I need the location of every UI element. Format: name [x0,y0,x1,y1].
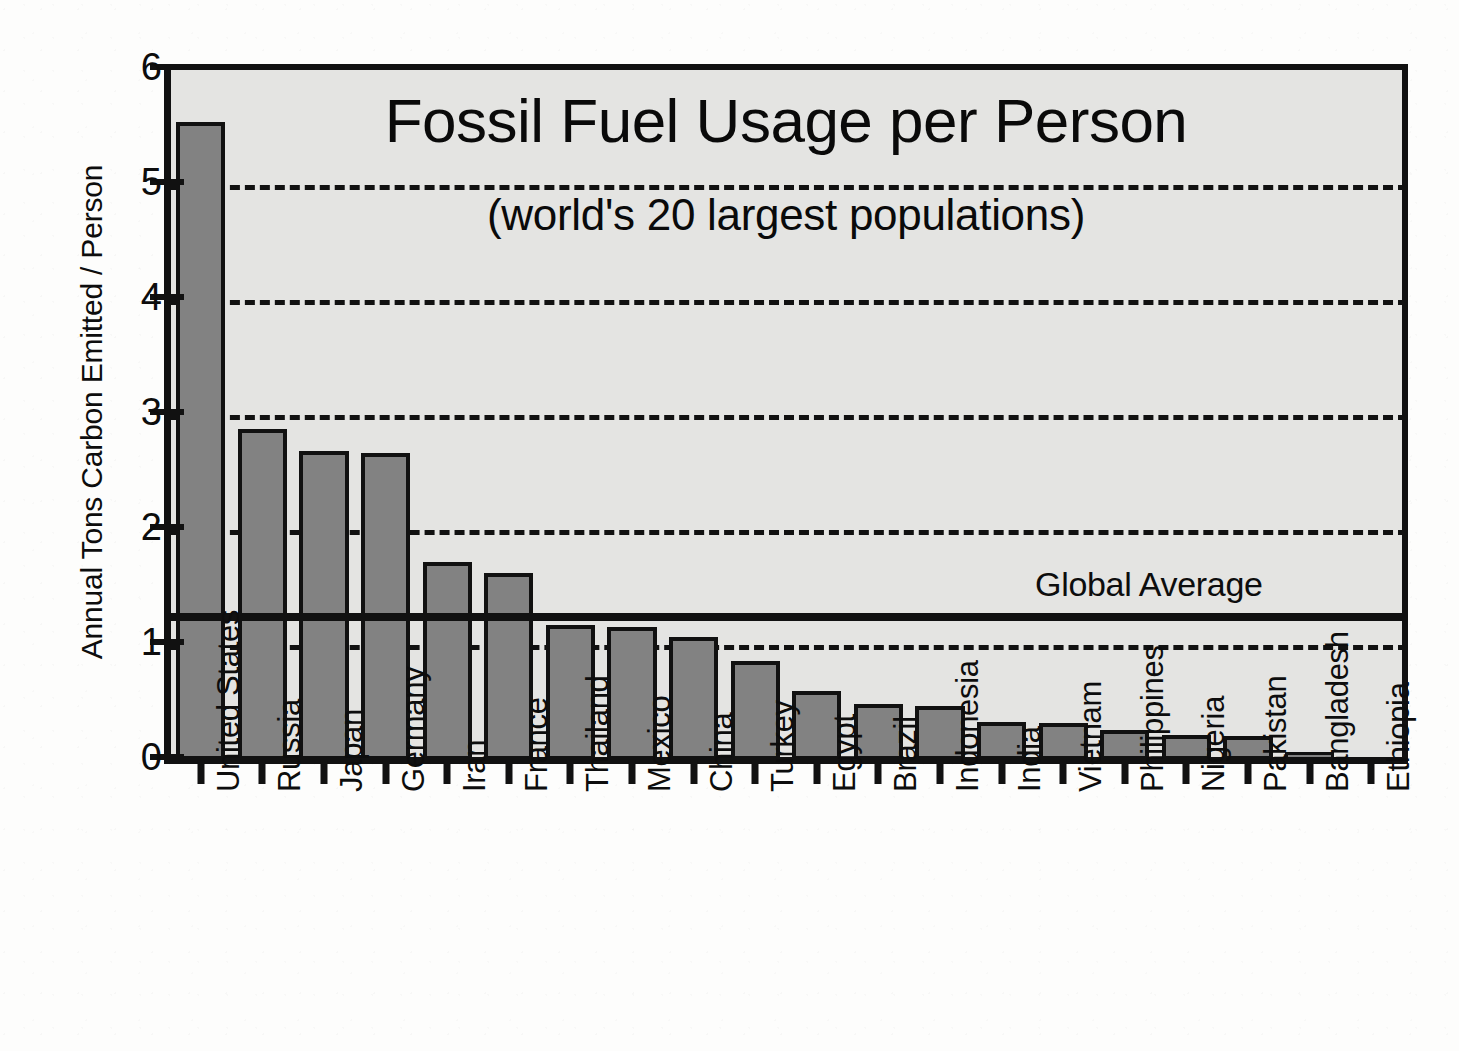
gridline [170,415,1408,420]
chart-figure: Annual Tons Carbon Emitted / Person 0123… [0,0,1459,1051]
x-tick-mark [259,760,266,784]
plot-area [170,64,1408,763]
x-tick-label: Thailand [582,675,613,792]
x-tick-label: Nigeria [1198,696,1229,792]
x-tick-mark [505,760,512,784]
x-tick-mark [690,760,697,784]
y-tick-label: 1 [122,623,162,661]
x-tick-mark [752,760,759,784]
chart-title: Fossil Fuel Usage per Person [170,88,1402,153]
x-tick-label: Mexico [644,696,675,792]
y-tick-label: 2 [122,508,162,546]
global-average-line [164,613,1408,621]
x-tick-mark [1245,760,1252,784]
x-tick-mark [998,760,1005,784]
x-tick-label: United States [213,610,244,792]
x-tick-label: Turkey [767,700,798,792]
x-tick-mark [937,760,944,784]
x-tick-mark [1306,760,1313,784]
x-tick-label: Iran [459,740,490,792]
x-tick-label: Russia [274,699,305,792]
x-tick-mark [629,760,636,784]
x-tick-label: Pakistan [1260,676,1291,793]
y-tick-label: 4 [122,278,162,316]
x-tick-label: China [706,713,737,793]
chart-subtitle: (world's 20 largest populations) [170,192,1402,238]
gridline [170,645,1408,650]
gridline [170,300,1408,305]
x-tick-label: Japan [336,709,367,792]
y-tick-label: 5 [122,163,162,201]
x-tick-label: Bangladesh [1322,631,1353,792]
gridline [170,530,1408,535]
x-tick-label: Indonesia [952,660,983,792]
x-tick-label: India [1014,726,1045,792]
y-tick-label: 0 [122,738,162,776]
x-tick-label: France [521,697,552,792]
x-tick-mark [875,760,882,784]
x-tick-mark [444,760,451,784]
x-tick-label: Germany [398,667,429,792]
y-tick-label: 3 [122,393,162,431]
y-tick-label: 6 [122,48,162,86]
x-tick-label: Egypt [829,714,860,792]
x-tick-label: Brazil [890,716,921,792]
x-tick-mark [1368,760,1375,784]
x-tick-mark [567,760,574,784]
x-tick-label: Vietnam [1075,681,1106,792]
x-tick-label: Ethiopia [1383,682,1414,792]
x-tick-mark [321,760,328,784]
global-average-label: Global Average [1035,565,1263,604]
x-tick-mark [1183,760,1190,784]
x-tick-mark [382,760,389,784]
x-tick-mark [813,760,820,784]
y-axis-label: Annual Tons Carbon Emitted / Person [70,67,114,757]
x-tick-label: Philippines [1137,645,1168,792]
x-tick-mark [1121,760,1128,784]
x-tick-mark [1060,760,1067,784]
x-tick-mark [197,760,204,784]
